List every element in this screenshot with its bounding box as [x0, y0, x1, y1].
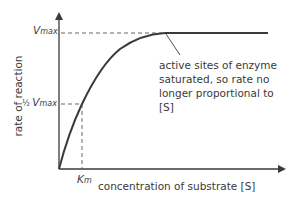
- x-axis-label: concentration of substrate [S]: [98, 180, 255, 192]
- saturation-annotation: active sites of enzyme saturated, so rat…: [159, 58, 289, 114]
- y-axis-label: rate of reaction: [12, 46, 24, 146]
- km-tick-label: Km: [77, 173, 92, 185]
- half-sub-text: max: [39, 99, 56, 108]
- annotation-line-3: longer proportional to [S]: [159, 86, 289, 114]
- half-vmax-tick-label: ½ Vmax: [22, 96, 57, 108]
- annotation-pointer: [166, 34, 180, 55]
- km-main-text: K: [77, 173, 84, 185]
- annotation-line-1: active sites of enzyme: [159, 58, 289, 72]
- vmax-tick-label: Vmax: [33, 24, 58, 36]
- km-sub-text: m: [84, 176, 92, 185]
- annotation-line-2: saturated, so rate no: [159, 72, 289, 86]
- vmax-sub-text: max: [40, 27, 57, 36]
